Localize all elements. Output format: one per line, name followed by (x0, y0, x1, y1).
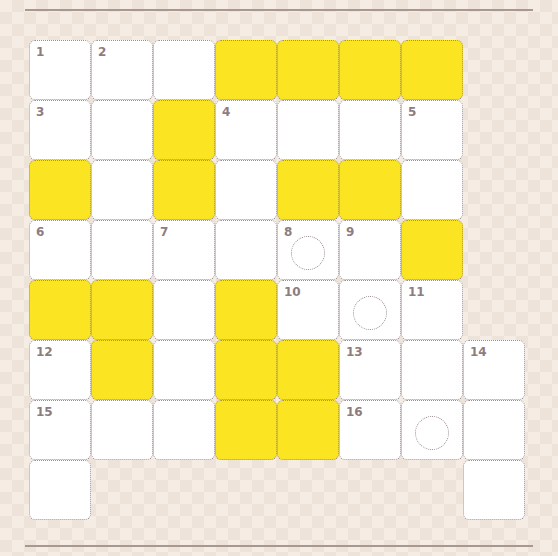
blocked-cell (277, 400, 339, 460)
blocked-cell (215, 400, 277, 460)
circle-marker-icon (353, 296, 387, 330)
blocked-cell (401, 40, 463, 100)
crossword-cell[interactable] (153, 400, 215, 460)
clue-number: 9 (346, 225, 354, 239)
blocked-cell (29, 280, 91, 340)
top-rule (25, 9, 533, 11)
crossword-cell[interactable] (91, 220, 153, 280)
crossword-cell[interactable] (401, 340, 463, 400)
clue-number: 3 (36, 105, 44, 119)
crossword-cell[interactable] (91, 160, 153, 220)
crossword-cell[interactable]: 5 (401, 100, 463, 160)
bottom-rule (25, 545, 533, 547)
clue-number: 14 (470, 345, 487, 359)
crossword-cell[interactable]: 6 (29, 220, 91, 280)
clue-number: 15 (36, 405, 53, 419)
clue-number: 7 (160, 225, 168, 239)
crossword-cell[interactable]: 2 (91, 40, 153, 100)
clue-number: 13 (346, 345, 363, 359)
crossword-cell[interactable] (153, 280, 215, 340)
clue-number: 1 (36, 45, 44, 59)
blocked-cell (277, 160, 339, 220)
crossword-cell[interactable] (91, 400, 153, 460)
blocked-cell (215, 40, 277, 100)
circle-marker-icon (415, 416, 449, 450)
crossword-grid: 12345678910111213141516 (29, 40, 525, 524)
crossword-cell[interactable]: 13 (339, 340, 401, 400)
clue-number: 16 (346, 405, 363, 419)
crossword-cell[interactable]: 4 (215, 100, 277, 160)
crossword-cell[interactable]: 9 (339, 220, 401, 280)
clue-number: 8 (284, 225, 292, 239)
crossword-cell[interactable]: 12 (29, 340, 91, 400)
blocked-cell (29, 160, 91, 220)
circle-marker-icon (291, 236, 325, 270)
crossword-cell[interactable] (215, 220, 277, 280)
crossword-cell[interactable] (153, 40, 215, 100)
crossword-cell[interactable]: 14 (463, 340, 525, 400)
crossword-cell[interactable] (91, 100, 153, 160)
crossword-cell[interactable] (401, 160, 463, 220)
crossword-cell[interactable]: 3 (29, 100, 91, 160)
blocked-cell (91, 280, 153, 340)
crossword-cell[interactable]: 1 (29, 40, 91, 100)
clue-number: 2 (98, 45, 106, 59)
blocked-cell (153, 160, 215, 220)
blocked-cell (277, 340, 339, 400)
blocked-cell (215, 340, 277, 400)
crossword-cell[interactable]: 15 (29, 400, 91, 460)
crossword-cell[interactable] (463, 460, 525, 520)
crossword-cell[interactable]: 8 (277, 220, 339, 280)
blocked-cell (401, 220, 463, 280)
crossword-cell[interactable] (215, 160, 277, 220)
clue-number: 10 (284, 285, 301, 299)
crossword-cell[interactable] (153, 340, 215, 400)
blocked-cell (91, 340, 153, 400)
clue-number: 5 (408, 105, 416, 119)
crossword-cell[interactable] (463, 400, 525, 460)
crossword-cell[interactable] (401, 400, 463, 460)
clue-number: 4 (222, 105, 230, 119)
blocked-cell (339, 160, 401, 220)
blocked-cell (215, 280, 277, 340)
crossword-cell[interactable] (339, 280, 401, 340)
clue-number: 12 (36, 345, 53, 359)
crossword-cell[interactable] (277, 100, 339, 160)
blocked-cell (277, 40, 339, 100)
blocked-cell (153, 100, 215, 160)
crossword-cell[interactable]: 16 (339, 400, 401, 460)
blocked-cell (339, 40, 401, 100)
crossword-cell[interactable] (339, 100, 401, 160)
crossword-cell[interactable]: 7 (153, 220, 215, 280)
crossword-cell[interactable]: 10 (277, 280, 339, 340)
clue-number: 11 (408, 285, 425, 299)
crossword-cell[interactable] (29, 460, 91, 520)
crossword-cell[interactable]: 11 (401, 280, 463, 340)
clue-number: 6 (36, 225, 44, 239)
